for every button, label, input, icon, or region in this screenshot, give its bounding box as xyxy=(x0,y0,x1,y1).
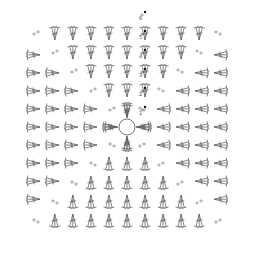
round4-cluster-icon xyxy=(65,85,78,96)
corner-chain-icon xyxy=(90,90,93,92)
round6-cluster-icon xyxy=(214,140,227,151)
round4-cluster-icon xyxy=(122,176,133,189)
corner-chain-icon xyxy=(200,52,203,54)
round3-cluster-icon xyxy=(103,157,114,170)
round5-cluster-icon xyxy=(67,195,78,208)
round5-cluster-icon xyxy=(46,103,59,114)
round6-cluster-icon xyxy=(27,49,40,60)
round2-cluster-icon xyxy=(103,122,116,133)
corner-chain-icon xyxy=(94,164,97,166)
corner-chain-icon xyxy=(75,69,78,71)
corner-chain-icon xyxy=(162,162,165,164)
round5-cluster-icon xyxy=(46,85,59,96)
round3-cluster-icon xyxy=(122,157,133,170)
crochet-diagram: 123456 xyxy=(0,0,253,255)
round5-cluster-icon xyxy=(122,46,133,59)
corner-chain-icon xyxy=(158,164,161,166)
corner-chain-icon xyxy=(56,50,59,52)
round5-cluster-icon xyxy=(195,103,208,114)
round6-cluster-icon xyxy=(194,27,205,40)
round6-cluster-icon xyxy=(176,27,187,40)
corner-chain-icon xyxy=(219,219,222,221)
round4-cluster-icon xyxy=(65,122,78,133)
round5-cluster-icon xyxy=(46,140,59,151)
corner-chain-icon xyxy=(215,221,218,223)
corner-chain-icon xyxy=(177,69,180,71)
round4-cluster-icon xyxy=(103,65,114,78)
corner-chain-icon xyxy=(162,90,165,92)
round6-cluster-icon xyxy=(214,122,227,133)
round3-cluster-icon xyxy=(140,157,151,170)
round-label: 6 xyxy=(139,15,142,21)
corner-chain-icon xyxy=(158,88,161,90)
round-label: 4 xyxy=(139,53,142,59)
round6-cluster-icon xyxy=(49,214,60,227)
join-dot-icon xyxy=(144,49,146,51)
corner-chain-icon xyxy=(33,219,36,221)
round6-cluster-icon xyxy=(103,214,114,227)
round6-cluster-icon xyxy=(158,214,169,227)
round5-cluster-icon xyxy=(85,195,96,208)
join-dot-icon xyxy=(144,11,146,13)
round6-cluster-icon xyxy=(27,85,40,96)
round5-cluster-icon xyxy=(195,122,208,133)
round5-cluster-icon xyxy=(176,46,187,59)
join-dot-icon xyxy=(144,106,146,108)
join-dot-icon xyxy=(144,68,146,70)
corner-chain-icon xyxy=(200,200,203,202)
round4-cluster-icon xyxy=(176,103,189,114)
round5-cluster-icon xyxy=(195,67,208,78)
round4-cluster-icon xyxy=(103,176,114,189)
round6-cluster-icon xyxy=(122,27,133,40)
corner-chain-icon xyxy=(219,33,222,35)
round3-cluster-icon xyxy=(84,103,97,114)
round6-cluster-icon xyxy=(214,158,227,169)
round6-cluster-icon xyxy=(214,103,227,114)
round6-cluster-icon xyxy=(27,122,40,133)
corner-chain-icon xyxy=(71,71,74,73)
round6-cluster-icon xyxy=(214,85,227,96)
corner-chain-icon xyxy=(71,181,74,183)
round5-cluster-icon xyxy=(103,46,114,59)
round6-cluster-icon xyxy=(49,27,60,40)
round6-cluster-icon xyxy=(67,214,78,227)
corner-chain-icon xyxy=(52,200,55,202)
join-dot-icon xyxy=(144,30,146,32)
round6-cluster-icon xyxy=(140,214,151,227)
round5-cluster-icon xyxy=(195,158,208,169)
corner-chain-icon xyxy=(37,221,40,223)
corner-chain-icon xyxy=(215,31,218,33)
round4-cluster-icon xyxy=(158,176,169,189)
round-label: 3 xyxy=(139,72,142,78)
corner-chain-icon xyxy=(143,143,146,145)
round4-cluster-icon xyxy=(176,158,189,169)
round5-cluster-icon xyxy=(85,46,96,59)
round6-cluster-icon xyxy=(85,27,96,40)
round2-cluster-icon xyxy=(138,122,151,133)
corner-chain-icon xyxy=(177,183,180,185)
corner-chain-icon xyxy=(75,183,78,185)
round3-cluster-icon xyxy=(103,84,114,97)
round5-cluster-icon xyxy=(140,195,151,208)
round4-cluster-icon xyxy=(65,158,78,169)
round-label: 2 xyxy=(139,91,142,97)
corner-chain-icon xyxy=(56,202,59,204)
round3-cluster-icon xyxy=(157,122,170,133)
round4-cluster-icon xyxy=(85,65,96,78)
round6-cluster-icon xyxy=(27,103,40,114)
round5-cluster-icon xyxy=(195,140,208,151)
corner-chain-icon xyxy=(181,181,184,183)
round4-cluster-icon xyxy=(176,140,189,151)
round6-cluster-icon xyxy=(67,27,78,40)
round2-cluster-icon xyxy=(122,138,133,151)
round5-cluster-icon xyxy=(67,46,78,59)
corner-chain-icon xyxy=(139,107,142,109)
corner-chain-icon xyxy=(113,107,116,109)
round5-cluster-icon xyxy=(103,195,114,208)
corner-chain-icon xyxy=(113,145,116,147)
round5-cluster-icon xyxy=(158,46,169,59)
round6-cluster-icon xyxy=(214,194,227,205)
round5-cluster-icon xyxy=(122,195,133,208)
round5-cluster-icon xyxy=(46,122,59,133)
round6-cluster-icon xyxy=(27,140,40,151)
